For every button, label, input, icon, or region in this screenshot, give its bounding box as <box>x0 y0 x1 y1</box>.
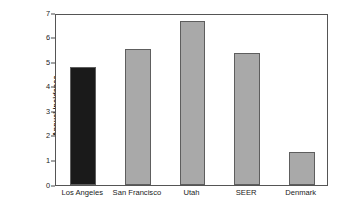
y-axis-tick-label: 3 <box>46 108 50 116</box>
x-axis-tick-label: Los Angeles <box>62 188 103 198</box>
x-axis-tick-label: San Francisco <box>113 188 162 198</box>
y-axis-tick-label: 2 <box>46 132 50 140</box>
x-axis-tick-label: SEER <box>236 188 257 198</box>
x-axis-tick-label: Denmark <box>285 188 316 198</box>
plot-area <box>55 14 328 186</box>
y-axis-tick-mark <box>51 62 55 63</box>
y-axis-tick-mark <box>51 111 55 112</box>
bar-chart: Annual incidence (per 100,000) 01234567 … <box>0 0 345 212</box>
x-axis-tick-labels: Los AngelesSan FranciscoUtahSEERDenmark <box>55 188 328 202</box>
y-axis-tick-label: 1 <box>46 157 50 165</box>
bar[interactable] <box>234 53 260 184</box>
y-axis-tick-mark <box>51 13 55 14</box>
x-axis-tick-label: Utah <box>183 188 199 198</box>
y-axis-tick-mark <box>51 136 55 137</box>
bars-layer <box>56 15 327 185</box>
y-axis-tick-labels: 01234567 <box>38 14 50 186</box>
y-axis-tick-mark <box>51 38 55 39</box>
bar[interactable] <box>289 152 315 185</box>
y-axis-tick-label: 0 <box>46 182 50 190</box>
y-axis-tick-label: 5 <box>46 59 50 67</box>
bar[interactable] <box>125 49 151 184</box>
bar[interactable] <box>180 21 206 184</box>
y-axis-tick-label: 7 <box>46 10 50 18</box>
y-axis-tick-mark <box>51 185 55 186</box>
y-axis-tick-label: 6 <box>46 34 50 42</box>
y-axis-tick-label: 4 <box>46 83 50 91</box>
bar[interactable] <box>70 67 96 185</box>
y-axis-tick-mark <box>51 160 55 161</box>
y-axis-tick-mark <box>51 87 55 88</box>
